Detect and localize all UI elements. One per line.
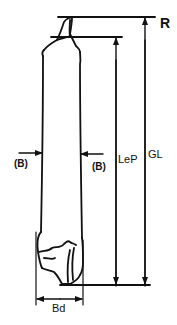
label-bd: Bd bbox=[52, 303, 65, 314]
bone-measurement-diagram: R (B) (B) LeP GL Bd bbox=[0, 0, 177, 325]
label-gl: GL bbox=[148, 149, 163, 160]
label-r: R bbox=[160, 16, 170, 30]
label-b-left: (B) bbox=[14, 159, 28, 169]
label-lep: LeP bbox=[118, 154, 138, 165]
label-b-right: (B) bbox=[92, 162, 106, 172]
bone-outline bbox=[37, 18, 83, 284]
